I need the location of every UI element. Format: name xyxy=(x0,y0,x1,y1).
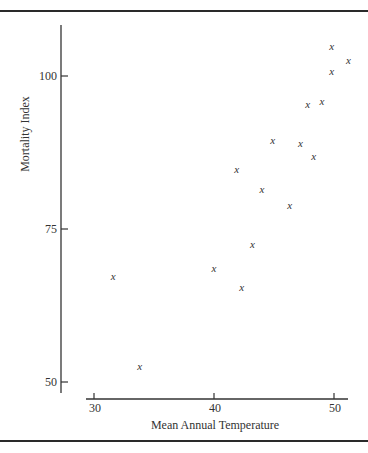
data-point-x-marker: x xyxy=(328,40,334,52)
x-axis-label: Mean Annual Temperature xyxy=(151,418,279,433)
data-points: xxxxxxxxxxxxxxxx xyxy=(110,40,351,373)
data-point-x-marker: x xyxy=(136,360,142,372)
data-point-x-marker: x xyxy=(238,281,244,293)
data-point-x-marker: x xyxy=(259,183,265,195)
data-point-x-marker: x xyxy=(269,134,275,146)
data-point-x-marker: x xyxy=(233,163,239,175)
y-axis-label: Mortality Index xyxy=(18,96,33,172)
data-point-x-marker: x xyxy=(304,98,310,110)
x-tick-label: 30 xyxy=(89,401,101,416)
y-tick-label: 75 xyxy=(33,222,57,237)
x-tick-label: 40 xyxy=(209,401,221,416)
x-tick-label: 50 xyxy=(329,401,341,416)
data-point-x-marker: x xyxy=(310,150,316,162)
x-axis-ticks xyxy=(94,393,334,399)
data-point-x-marker: x xyxy=(249,238,255,250)
data-point-x-marker: x xyxy=(319,95,325,107)
data-point-x-marker: x xyxy=(110,270,116,282)
data-point-x-marker: x xyxy=(286,199,292,211)
data-point-x-marker: x xyxy=(297,137,303,149)
data-point-x-marker: x xyxy=(211,262,217,274)
data-point-x-marker: x xyxy=(345,54,351,66)
y-tick-label: 50 xyxy=(33,375,57,390)
data-point-x-marker: x xyxy=(328,65,334,77)
y-tick-label: 100 xyxy=(33,69,57,84)
y-axis-ticks xyxy=(61,76,68,382)
